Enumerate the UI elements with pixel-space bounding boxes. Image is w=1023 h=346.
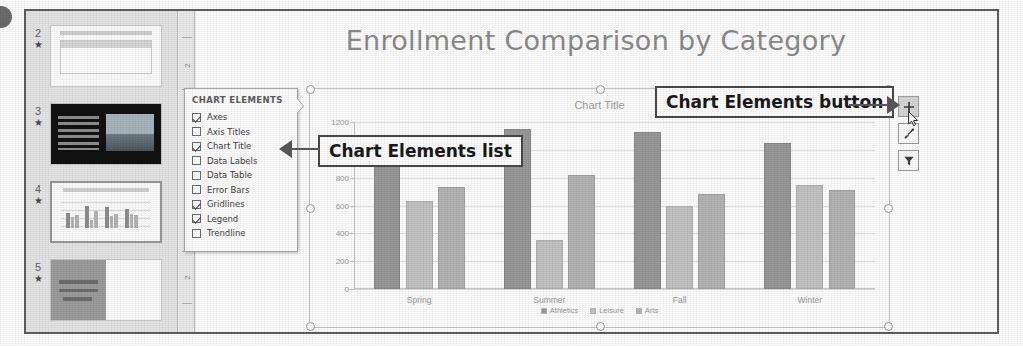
checkbox-checked[interactable] <box>192 200 201 209</box>
legend-item-leisure[interactable]: Leisure <box>590 306 624 315</box>
checkbox-unchecked[interactable] <box>192 185 201 194</box>
thumbnail-slide-3[interactable]: 3 ★ <box>26 103 178 165</box>
callout-arrow-right <box>887 96 900 114</box>
funnel-icon <box>902 154 915 167</box>
mini-text-panel <box>51 260 106 320</box>
chart-element-item-data-table[interactable]: Data Table <box>192 168 290 183</box>
legend-label: Arts <box>645 306 658 315</box>
bar-arts-summer[interactable] <box>568 175 595 289</box>
star-icon: ★ <box>26 195 50 206</box>
checkbox-checked[interactable] <box>192 214 201 223</box>
bar-arts-spring[interactable] <box>438 187 465 289</box>
mini-photo <box>106 114 154 151</box>
legend-label: Leisure <box>599 306 624 315</box>
resize-handle-top-center[interactable] <box>596 85 605 94</box>
chart-element-item-legend[interactable]: Legend <box>192 212 290 227</box>
chart-element-label: Error Bars <box>207 185 249 195</box>
slide-canvas[interactable]: Enrollment Comparison by Category Chart … <box>196 11 997 332</box>
mini-table <box>60 40 152 74</box>
bar-athletics-spring[interactable] <box>374 165 401 289</box>
legend-item-athletics[interactable]: Athletics <box>541 306 578 315</box>
ruler-label: 2 <box>183 271 192 285</box>
chart-elements-items[interactable]: AxesAxis TitlesChart TitleData LabelsDat… <box>192 110 290 241</box>
resize-handle-middle-left[interactable] <box>306 204 315 213</box>
bar-leisure-winter[interactable] <box>796 185 823 289</box>
bar-leisure-spring[interactable] <box>406 201 433 289</box>
callout-chart-elements-button: Chart Elements button <box>655 86 894 118</box>
figure-callout-dot <box>0 6 12 28</box>
chart-element-item-axes[interactable]: Axes <box>192 110 290 125</box>
y-axis-tick-label: 0 <box>345 285 349 294</box>
thumbnail-preview[interactable] <box>50 103 162 165</box>
checkbox-checked[interactable] <box>192 142 201 151</box>
thumbnail-slide-2[interactable]: 2 ★ <box>26 25 178 87</box>
y-axis-tick-label: 1200 <box>331 118 349 127</box>
checkbox-unchecked[interactable] <box>192 229 201 238</box>
bar-group: Winter <box>745 122 875 289</box>
chart-element-label: Axes <box>207 112 227 122</box>
callout-arrow-left <box>279 140 292 158</box>
bar-athletics-winter[interactable] <box>764 143 791 289</box>
checkbox-unchecked[interactable] <box>192 156 201 165</box>
thumbnail-preview[interactable] <box>50 259 162 321</box>
bar-arts-fall[interactable] <box>698 194 725 289</box>
legend-swatch <box>541 308 547 314</box>
thumbnail-number: 5 ★ <box>26 259 50 321</box>
chart-elements-list-panel[interactable]: CHART ELEMENTS AxesAxis TitlesChart Titl… <box>184 88 298 252</box>
y-axis-tick-label: 800 <box>336 173 349 182</box>
bar-leisure-summer[interactable] <box>536 240 563 289</box>
callout-leader-line <box>292 148 320 150</box>
resize-handle-bottom-right[interactable] <box>884 322 893 331</box>
bar-leisure-fall[interactable] <box>666 206 693 290</box>
mini-chart <box>61 196 152 232</box>
resize-handle-top-left[interactable] <box>306 85 315 94</box>
chart-element-item-data-labels[interactable]: Data Labels <box>192 154 290 169</box>
thumbnail-slide-4[interactable]: 4 ★ <box>26 181 178 243</box>
checkbox-checked[interactable] <box>192 113 201 122</box>
mouse-cursor-icon <box>908 111 919 127</box>
chart-side-buttons[interactable] <box>898 96 919 177</box>
mini-dark-slide <box>51 104 161 164</box>
chart-element-label: Trendline <box>207 228 246 238</box>
slide-thumbnail-pane[interactable]: 2 ★ 3 ★ 4 ★ <box>26 11 178 332</box>
brush-icon <box>902 127 915 140</box>
resize-handle-bottom-center[interactable] <box>596 322 605 331</box>
x-axis-category-label: Fall <box>615 295 745 305</box>
y-axis-tick-label: 200 <box>336 257 349 266</box>
x-axis-category-label: Winter <box>745 295 875 305</box>
bar-athletics-fall[interactable] <box>634 132 661 289</box>
y-axis-tick <box>350 289 354 290</box>
thumbnail-number: 2 ★ <box>26 25 50 87</box>
bar-group: Fall <box>615 122 745 289</box>
resize-handle-bottom-left[interactable] <box>306 322 315 331</box>
thumbnail-slide-5[interactable]: 5 ★ <box>26 259 178 321</box>
chart-element-item-gridlines[interactable]: Gridlines <box>192 197 290 212</box>
legend-item-arts[interactable]: Arts <box>636 306 658 315</box>
chart-element-item-trendline[interactable]: Trendline <box>192 226 290 241</box>
chart-element-label: Axis Titles <box>207 127 250 137</box>
chart-element-item-axis-titles[interactable]: Axis Titles <box>192 125 290 140</box>
thumbnail-number: 4 ★ <box>26 181 50 243</box>
checkbox-unchecked[interactable] <box>192 127 201 136</box>
x-axis-category-label: Summer <box>484 295 614 305</box>
resize-handle-middle-right[interactable] <box>884 204 893 213</box>
legend-swatch <box>636 308 642 314</box>
legend-swatch <box>590 308 596 314</box>
screenshot-root: 2 ★ 3 ★ 4 ★ <box>0 0 1023 346</box>
chart-object[interactable]: Chart Title 020040060080010001200SpringS… <box>309 88 890 328</box>
checkbox-unchecked[interactable] <box>192 171 201 180</box>
thumbnail-number: 3 ★ <box>26 103 50 165</box>
chart-element-item-error-bars[interactable]: Error Bars <box>192 183 290 198</box>
chart-element-item-chart-title[interactable]: Chart Title <box>192 139 290 154</box>
page-title: Enrollment Comparison by Category <box>256 25 936 56</box>
chart-element-label: Chart Title <box>207 141 251 151</box>
bar-arts-winter[interactable] <box>829 190 856 289</box>
gridline <box>354 289 875 290</box>
chart-filters-button[interactable] <box>898 150 919 171</box>
chart-legend[interactable]: AthleticsLeisureArts <box>310 306 889 315</box>
thumbnail-preview[interactable] <box>50 25 162 87</box>
thumbnail-preview-selected[interactable] <box>50 181 162 243</box>
ruler-label: 2 <box>183 59 192 73</box>
star-icon: ★ <box>26 117 50 128</box>
chart-elements-header: CHART ELEMENTS <box>192 95 290 105</box>
